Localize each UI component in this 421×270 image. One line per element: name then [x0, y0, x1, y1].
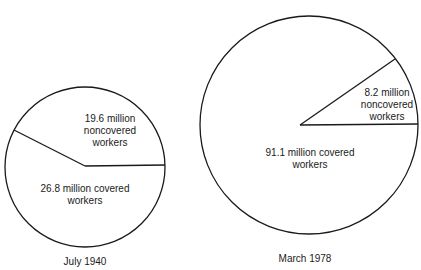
pie1-title: July 1940 — [40, 256, 130, 268]
pie2-title: March 1978 — [260, 253, 350, 265]
pie2-noncovered-label: 8.2 million noncovered workers — [352, 87, 421, 123]
pie-1940 — [5, 87, 165, 247]
pie1-covered-label: 26.8 million covered workers — [30, 183, 140, 207]
pie-1978 — [200, 16, 418, 234]
pie2-covered-label: 91.1 million covered workers — [250, 147, 370, 171]
pie1-noncovered-label: 19.6 million noncovered workers — [60, 113, 160, 149]
